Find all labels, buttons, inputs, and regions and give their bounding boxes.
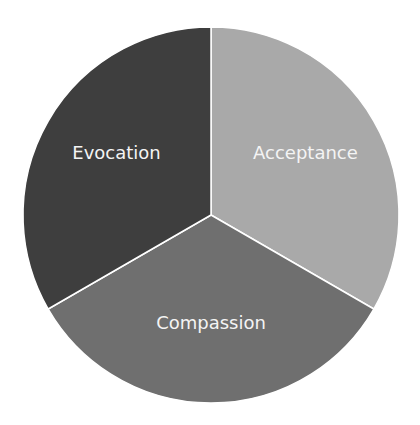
pie-label-compassion: Compassion bbox=[156, 312, 266, 333]
pie-label-evocation: Evocation bbox=[72, 142, 160, 163]
pie-label-acceptance: Acceptance bbox=[253, 142, 358, 163]
pie-slices bbox=[23, 27, 399, 403]
pie-chart: AcceptanceCompassionEvocation bbox=[0, 0, 420, 425]
